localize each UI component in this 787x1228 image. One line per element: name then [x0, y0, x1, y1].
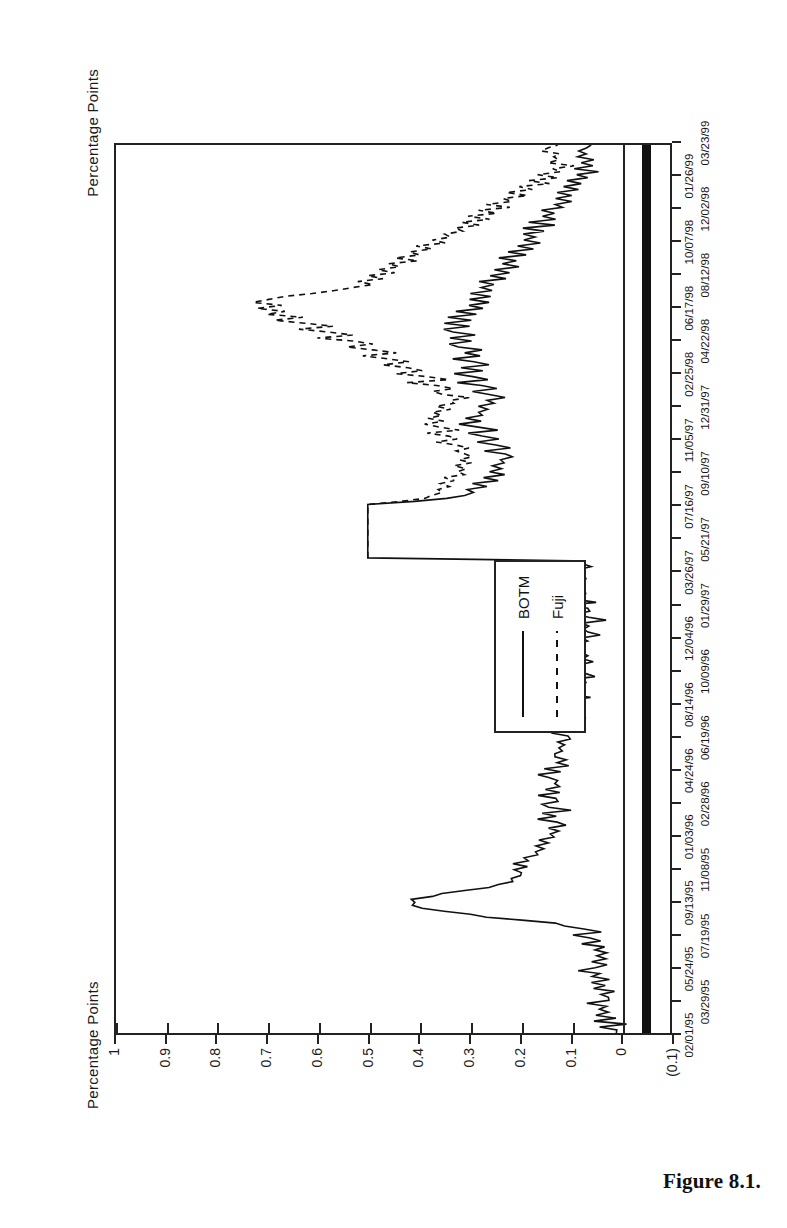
x-axis-tick	[672, 274, 681, 276]
y-axis-inner-tick	[471, 1023, 473, 1033]
y-axis-tick-label: 0.6	[308, 1048, 324, 1067]
x-axis-tick-label: 11/08/95	[699, 848, 711, 892]
y-axis-tick	[469, 1035, 471, 1044]
y-axis-inner-tick	[369, 1023, 371, 1033]
x-axis-tick	[672, 174, 681, 176]
legend: BOTM Fuji	[494, 560, 586, 733]
y-axis-tick-label: 0.2	[511, 1048, 527, 1067]
x-axis-tick-label: 06/17/98	[683, 286, 695, 331]
x-axis-tick	[672, 1000, 681, 1002]
x-axis-tick-label: 03/29/95	[699, 980, 711, 1025]
x-axis-tick-label: 03/26/97	[683, 551, 695, 596]
y-axis-tick-label: (0.1)	[664, 1048, 680, 1077]
x-axis-tick-label: 09/13/95	[683, 881, 695, 926]
axis-title-bottom: Percentage Points	[84, 69, 101, 197]
x-axis-tick-label: 01/03/96	[683, 815, 695, 860]
y-axis-tick-label: 0.9	[156, 1048, 172, 1067]
x-axis-tick-label: 07/16/97	[683, 484, 695, 529]
y-axis-tick	[519, 1035, 521, 1044]
y-axis-inner-tick	[318, 1023, 320, 1033]
x-axis-tick-label: 03/23/99	[699, 121, 711, 166]
x-axis-tick-label: 08/12/98	[699, 253, 711, 298]
y-axis-inner-tick	[572, 1023, 574, 1033]
y-axis-inner-tick	[166, 1023, 168, 1033]
x-axis-tick	[672, 835, 681, 837]
x-axis-tick-label: 02/28/96	[699, 782, 711, 827]
x-axis-tick-label: 04/24/96	[683, 749, 695, 794]
legend-key-dashed	[556, 631, 558, 717]
x-axis-tick	[672, 373, 681, 375]
x-axis-tick	[672, 141, 681, 143]
y-axis-tick	[266, 1035, 268, 1044]
x-axis-tick	[672, 967, 681, 969]
x-axis-tick	[672, 901, 681, 903]
x-axis-tick	[672, 439, 681, 441]
x-axis-tick	[672, 703, 681, 705]
x-axis-tick	[672, 241, 681, 243]
y-axis-inner-tick	[521, 1023, 523, 1033]
y-axis-tick	[316, 1035, 318, 1044]
y-axis-tick-label: 0.1	[562, 1048, 578, 1067]
x-axis-tick	[672, 868, 681, 870]
x-axis-tick-label: 08/14/96	[683, 683, 695, 728]
x-axis-tick-label: 02/25/98	[683, 352, 695, 397]
y-axis-tick-label: 0.4	[410, 1048, 426, 1067]
x-axis-tick	[672, 472, 681, 474]
y-axis-tick	[672, 1035, 674, 1044]
legend-item: Fuji	[540, 576, 574, 717]
x-axis-tick-label: 06/19/96	[699, 716, 711, 761]
x-axis-tick-label: 12/31/97	[699, 385, 711, 430]
x-axis-tick-label: 12/04/96	[683, 617, 695, 662]
y-axis-tick-label: 0.3	[461, 1048, 477, 1067]
y-axis-inner-tick	[268, 1023, 270, 1033]
x-axis-tick-label: 09/10/97	[699, 451, 711, 496]
x-axis-tick-label: 12/02/98	[699, 187, 711, 232]
y-axis-tick	[215, 1035, 217, 1044]
x-axis-tick	[672, 802, 681, 804]
x-axis-tick	[672, 307, 681, 309]
x-axis-tick-label: 11/05/97	[683, 419, 695, 463]
y-axis: 10.90.80.70.60.50.40.30.20.10(0.1)	[114, 1035, 672, 1109]
x-axis-tick-label: 07/19/95	[699, 914, 711, 959]
x-axis-tick	[672, 340, 681, 342]
x-axis-tick	[672, 571, 681, 573]
series-layer	[116, 145, 670, 1033]
chart: Percentage Points Percentage Points 10.9…	[74, 69, 714, 1109]
x-axis-tick	[672, 406, 681, 408]
y-axis-inner-tick	[420, 1023, 422, 1033]
y-axis-inner-tick	[623, 1023, 625, 1033]
x-axis-tick	[672, 208, 681, 210]
y-axis-tick	[164, 1035, 166, 1044]
legend-label-fuji: Fuji	[548, 595, 565, 619]
x-axis-tick	[672, 538, 681, 540]
x-axis-tick-label: 05/24/95	[683, 947, 695, 992]
rotated-chart-wrapper: Percentage Points Percentage Points 10.9…	[0, 0, 787, 1228]
x-axis-tick	[672, 736, 681, 738]
legend-item: BOTM	[506, 576, 540, 717]
x-axis-tick	[672, 505, 681, 507]
y-axis-tick	[418, 1035, 420, 1044]
y-axis-tick-label: 1	[106, 1048, 122, 1056]
x-axis-tick-label: 05/21/97	[699, 518, 711, 563]
plot-area: BOTM Fuji	[114, 143, 672, 1035]
x-axis-tick	[672, 670, 681, 672]
figure-page: Percentage Points Percentage Points 10.9…	[0, 0, 787, 1228]
x-axis-tick	[672, 637, 681, 639]
y-axis-tick	[570, 1035, 572, 1044]
y-axis-tick-label: 0.7	[258, 1048, 274, 1067]
y-axis-tick-label: 0.8	[207, 1048, 223, 1067]
y-axis-tick-label: 0.5	[359, 1048, 375, 1067]
y-axis-tick	[621, 1035, 623, 1044]
series-line-fuji	[253, 145, 574, 558]
x-axis-tick	[672, 604, 681, 606]
axis-title-top: Percentage Points	[84, 982, 101, 1110]
y-axis-tick	[114, 1035, 116, 1044]
legend-label-botm: BOTM	[514, 576, 531, 619]
x-axis: 02/01/9503/29/9505/24/9507/19/9509/13/95…	[672, 143, 718, 1035]
x-axis-tick	[672, 769, 681, 771]
x-axis-tick	[672, 934, 681, 936]
y-axis-tick	[367, 1035, 369, 1044]
x-axis-tick-label: 10/09/96	[699, 650, 711, 695]
x-axis-tick-label: 02/01/95	[683, 1013, 695, 1058]
y-axis-inner-tick	[116, 1023, 118, 1033]
